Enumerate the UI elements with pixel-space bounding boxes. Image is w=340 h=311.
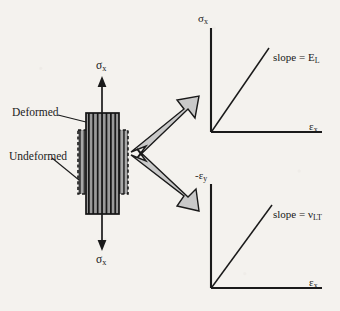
load-bottom-subscript: x — [102, 258, 106, 267]
load-arrow-up — [98, 76, 107, 113]
chart-stress-strain-xlabel: εx — [309, 120, 318, 134]
chart-stress-strain-annotation: slope = EL — [273, 51, 320, 65]
deformed-leader-line — [58, 115, 86, 122]
chart-transverse-strain-line — [212, 205, 272, 287]
chart-transverse-strain-axes — [211, 184, 322, 288]
annotation-subscript-bottom: LT — [313, 213, 322, 222]
load-top-label: σx — [96, 59, 106, 73]
chart-stress-strain-axes — [211, 28, 322, 132]
xlabel-subscript-top: x — [314, 125, 318, 134]
chart-stress-strain-ylabel: σx — [198, 12, 208, 26]
chart-transverse-strain-ylabel: -εy — [195, 169, 207, 183]
load-arrow-down — [98, 214, 107, 251]
figure-canvas: Deformed Undeformed σx σx σx εx slope = … — [0, 0, 340, 311]
chart-transverse-strain-xlabel: εx — [309, 276, 318, 290]
deformed-specimen — [86, 113, 119, 214]
ylabel-subscript-top: x — [204, 17, 208, 26]
xlabel-subscript-bottom: x — [314, 281, 318, 290]
chart-transverse-strain-annotation: slope = νLT — [273, 208, 322, 222]
flow-arrow-lower — [131, 149, 199, 211]
annotation-text-bottom: slope = ν — [273, 208, 313, 220]
deformed-label: Deformed — [12, 106, 59, 118]
load-top-subscript: x — [102, 64, 106, 73]
annotation-subscript-top: L — [315, 56, 320, 65]
flow-arrow-upper — [131, 96, 199, 158]
load-bottom-label: σx — [96, 253, 106, 267]
annotation-text-top: slope = E — [273, 51, 315, 63]
chart-stress-strain-line — [212, 48, 269, 131]
undeformed-label: Undeformed — [9, 150, 67, 162]
ylabel-subscript-bottom: y — [203, 174, 207, 183]
